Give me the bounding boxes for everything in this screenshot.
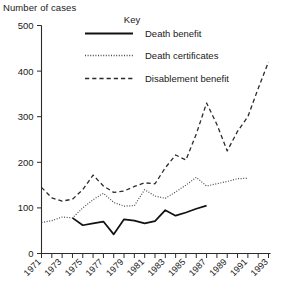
x-axis-tick-label: 1991 (228, 257, 249, 278)
x-axis-tick-label: 1985 (166, 257, 187, 278)
legend-entry-label: Death certificates (145, 50, 219, 61)
legend-entry-label: Disablement benefit (145, 73, 229, 84)
x-axis-tick-label: 1973 (42, 257, 63, 278)
data-series-group (42, 62, 269, 234)
x-axis-tick-label: 1979 (104, 257, 125, 278)
legend-entry-label: Death benefit (145, 28, 202, 39)
y-axis-tick-label: 300 (18, 111, 34, 122)
x-axis-tick-label: 1977 (84, 257, 105, 278)
legend-title: Key (124, 14, 141, 25)
line-chart-plot: 0100200300400500 19711973197519771979198… (0, 0, 284, 296)
chart-figure: Number of cases 0100200300400500 1971197… (0, 0, 284, 296)
series-line-solid (72, 206, 206, 235)
x-axis-tick-label: 1975 (63, 257, 84, 278)
y-axis-tick-label: 200 (18, 157, 34, 168)
y-axis-title: Number of cases (3, 2, 76, 13)
x-axis-tick-label: 1989 (207, 257, 228, 278)
y-axis-tick-label: 400 (18, 66, 34, 77)
x-axis-tick-label: 1987 (187, 257, 208, 278)
x-axis-tick-label: 1981 (125, 257, 146, 278)
y-axis-tick-label: 0 (28, 248, 33, 259)
x-axis-tick-group: 1971197319751977197919811983198519871989… (22, 254, 270, 279)
y-axis-tick-group: 0100200300400500 (18, 20, 42, 259)
y-axis-tick-label: 500 (18, 20, 34, 31)
x-axis-tick-label: 1983 (145, 257, 166, 278)
x-axis-tick-label: 1993 (249, 257, 270, 278)
y-axis-tick-label: 100 (18, 202, 34, 213)
series-line-dotted (42, 177, 248, 222)
chart-legend: KeyDeath benefitDeath certificatesDisabl… (85, 14, 229, 84)
x-axis-tick-label: 1971 (22, 257, 43, 278)
